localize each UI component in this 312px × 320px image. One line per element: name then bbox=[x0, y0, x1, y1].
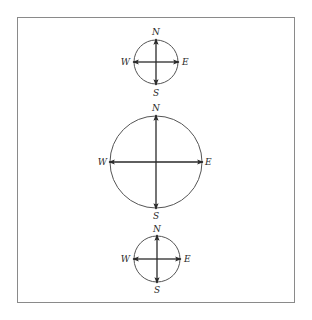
east-label: E bbox=[181, 57, 189, 67]
west-label: W bbox=[98, 157, 108, 167]
compass-top: N S E W bbox=[121, 27, 189, 98]
east-label: E bbox=[183, 254, 191, 264]
north-label: N bbox=[151, 27, 161, 37]
north-label: N bbox=[151, 103, 161, 113]
compass-bottom: N S E W bbox=[121, 224, 191, 295]
north-label: N bbox=[152, 224, 162, 234]
south-label: S bbox=[153, 211, 159, 221]
west-label: W bbox=[121, 254, 131, 264]
compass-middle: N S E W bbox=[98, 103, 212, 221]
east-label: E bbox=[204, 157, 212, 167]
west-label: W bbox=[121, 57, 131, 67]
south-label: S bbox=[153, 88, 159, 98]
south-label: S bbox=[154, 285, 160, 295]
compass-diagram: N S E W N S E W N S E W bbox=[0, 0, 312, 320]
